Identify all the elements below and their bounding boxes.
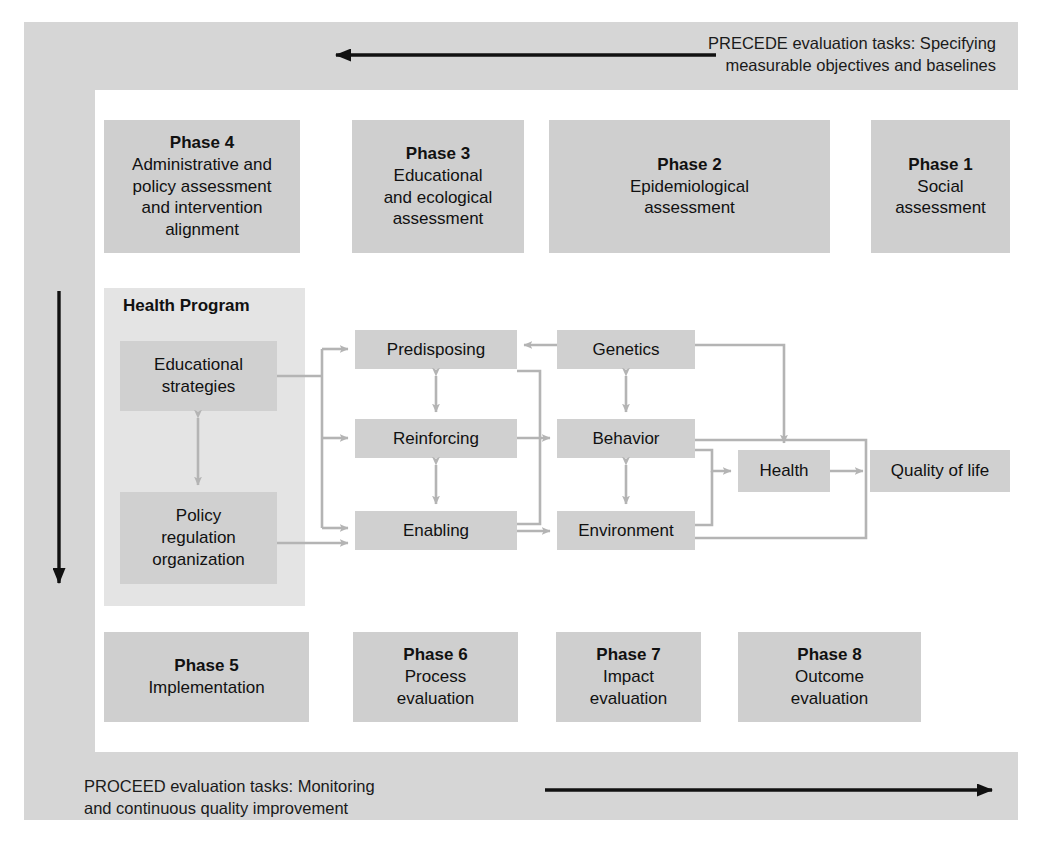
phase-box-8: Phase 8 Outcome evaluation [738,632,921,722]
phase-1-number: Phase 1 [908,154,972,176]
proceed-footer-label: PROCEED evaluation tasks: Monitoring and… [84,775,514,820]
precede-proceed-diagram: PRECEDE evaluation tasks: Specifying mea… [0,0,1042,851]
node-health: Health [738,450,830,492]
phase-box-6: Phase 6 Process evaluation [353,632,518,722]
node-reinforcing: Reinforcing [355,419,517,458]
phase-box-1: Phase 1 Social assessment [871,120,1010,253]
node-educational-strategies: Educational strategies [120,341,277,411]
phase-6-body: Process evaluation [397,666,475,710]
node-genetics: Genetics [557,330,695,369]
node-quality-of-life: Quality of life [870,450,1010,492]
phase-4-number: Phase 4 [170,132,234,154]
phase-box-4: Phase 4 Administrative and policy assess… [104,120,300,253]
phase-6-number: Phase 6 [403,644,467,666]
phase-box-3: Phase 3 Educational and ecological asses… [352,120,524,253]
node-predisposing: Predisposing [355,330,517,369]
phase-3-number: Phase 3 [406,143,470,165]
health-program-title: Health Program [123,296,250,316]
phase-5-number: Phase 5 [174,655,238,677]
phase-8-body: Outcome evaluation [791,666,869,710]
phase-box-7: Phase 7 Impact evaluation [556,632,701,722]
node-behavior: Behavior [557,419,695,458]
node-environment: Environment [557,511,695,550]
phase-8-number: Phase 8 [797,644,861,666]
node-enabling: Enabling [355,511,517,550]
node-policy-regulation-organization: Policy regulation organization [120,492,277,584]
precede-header-label: PRECEDE evaluation tasks: Specifying mea… [648,32,996,77]
phase-7-number: Phase 7 [596,644,660,666]
phase-4-body: Administrative and policy assessment and… [132,154,272,241]
phase-box-2: Phase 2 Epidemiological assessment [549,120,830,253]
phase-5-body: Implementation [148,677,264,699]
phase-7-body: Impact evaluation [590,666,668,710]
phase-2-number: Phase 2 [657,154,721,176]
phase-2-body: Epidemiological assessment [630,176,749,220]
phase-1-body: Social assessment [895,176,986,220]
phase-box-5: Phase 5 Implementation [104,632,309,722]
phase-3-body: Educational and ecological assessment [384,165,493,230]
